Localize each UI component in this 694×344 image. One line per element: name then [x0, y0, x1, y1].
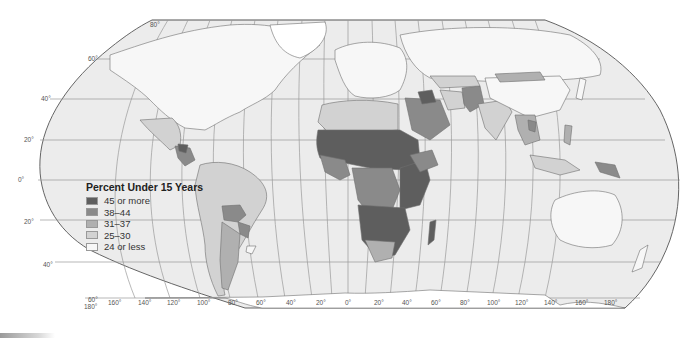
legend-item-38-44: 38–44 — [86, 207, 203, 219]
legend-label: 25–30 — [104, 230, 130, 241]
legend-label: 38–44 — [104, 207, 130, 218]
svg-text:140°: 140° — [138, 299, 152, 306]
svg-text:180°: 180° — [604, 299, 618, 306]
legend-swatch — [86, 208, 98, 216]
svg-text:20°: 20° — [24, 136, 34, 143]
legend-label: 24 or less — [104, 241, 145, 252]
svg-text:20°: 20° — [24, 218, 34, 225]
legend-swatch — [86, 197, 98, 205]
svg-text:120°: 120° — [167, 299, 181, 306]
svg-text:40°: 40° — [41, 95, 51, 102]
svg-text:20°: 20° — [374, 299, 384, 306]
svg-text:40°: 40° — [286, 299, 296, 306]
svg-text:60°: 60° — [88, 296, 98, 303]
svg-text:180°: 180° — [84, 303, 98, 310]
svg-text:40°: 40° — [43, 261, 53, 268]
svg-text:60°: 60° — [431, 299, 441, 306]
svg-text:100°: 100° — [487, 299, 501, 306]
legend-label: 31–37 — [104, 218, 130, 229]
legend-item-24-or-less: 24 or less — [86, 241, 203, 253]
legend-swatch — [86, 243, 98, 251]
legend-swatch — [86, 231, 98, 239]
region-australia — [551, 191, 622, 248]
svg-text:80°: 80° — [150, 21, 160, 28]
svg-text:160°: 160° — [575, 299, 589, 306]
legend-item-45-or-more: 45 or more — [86, 195, 203, 207]
svg-text:20°: 20° — [316, 299, 326, 306]
legend-item-25-30: 25–30 — [86, 230, 203, 242]
region-north-africa — [318, 100, 398, 132]
svg-text:0°: 0° — [345, 299, 352, 306]
legend-title: Percent Under 15 Years — [86, 181, 203, 193]
svg-text:100°: 100° — [197, 299, 211, 306]
svg-text:120°: 120° — [515, 299, 529, 306]
svg-text:60°: 60° — [256, 299, 266, 306]
world-map: 80° 60° 40° 20° 0° 20° 40° 60° 180° 160°… — [0, 0, 694, 344]
region-laos — [528, 120, 536, 132]
svg-text:80°: 80° — [228, 299, 238, 306]
legend-item-31-37: 31–37 — [86, 218, 203, 230]
svg-text:60°: 60° — [88, 55, 98, 62]
legend-swatch — [86, 220, 98, 228]
region-mongolia — [495, 72, 545, 82]
svg-text:80°: 80° — [460, 299, 470, 306]
svg-text:160°: 160° — [108, 299, 122, 306]
svg-text:140°: 140° — [544, 299, 558, 306]
map-legend: Percent Under 15 Years 45 or more 38–44 … — [86, 181, 203, 253]
legend-label: 45 or more — [104, 195, 150, 206]
svg-text:0°: 0° — [18, 176, 25, 183]
footer-gradient-bar — [0, 333, 55, 338]
svg-text:40°: 40° — [402, 299, 412, 306]
